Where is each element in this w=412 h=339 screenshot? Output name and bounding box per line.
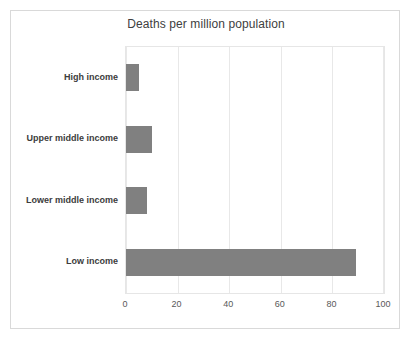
plot-area: [125, 46, 385, 294]
bar-row: [126, 126, 384, 153]
bar-row: [126, 64, 384, 91]
x-tick-100: 100: [375, 299, 390, 309]
x-tick-0: 0: [122, 299, 127, 309]
x-tick-80: 80: [326, 299, 336, 309]
category-label-upper-middle-income: Upper middle income: [26, 133, 118, 143]
bar-row: [126, 249, 384, 276]
bar-low-income[interactable]: [126, 249, 356, 276]
category-label-high-income: High income: [64, 72, 118, 82]
chart-title: Deaths per million population: [11, 17, 401, 31]
chart-frame: Deaths per million population High incom…: [10, 10, 400, 329]
category-label-lower-middle-income: Lower middle income: [26, 195, 118, 205]
bar-upper-middle-income[interactable]: [126, 126, 152, 153]
x-tick-20: 20: [172, 299, 182, 309]
x-tick-40: 40: [223, 299, 233, 309]
bar-lower-middle-income[interactable]: [126, 187, 147, 214]
x-tick-60: 60: [275, 299, 285, 309]
bar-row: [126, 187, 384, 214]
bar-high-income[interactable]: [126, 64, 139, 91]
category-label-low-income: Low income: [66, 256, 118, 266]
